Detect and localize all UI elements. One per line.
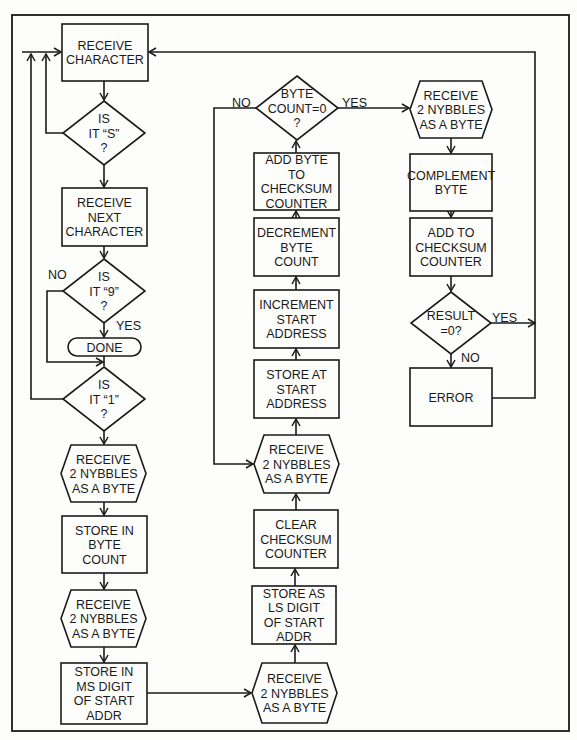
node-text: COUNTER xyxy=(265,547,327,561)
label-no-9: NO xyxy=(48,268,67,282)
node-receive-character: RECEIVECHARACTER xyxy=(62,24,148,81)
node-text: RECEIVE xyxy=(267,672,322,686)
node-text: RECEIVE xyxy=(76,453,131,467)
node-text: RECEIVE xyxy=(78,39,133,53)
node-text: RECEIVE xyxy=(269,443,324,457)
node-text: CHECKSUM xyxy=(261,182,333,196)
node-text: 2 NYBBLES xyxy=(69,467,137,481)
node-text: AS A BYTE xyxy=(72,627,135,641)
node-receive-nybbles-4: RECEIVE2 NYBBLESAS A BYTE xyxy=(254,435,339,493)
node-add-byte-to-checksum: ADD BYTETOCHECKSUMCOUNTER xyxy=(254,153,339,211)
node-text: RECEIVE xyxy=(77,196,132,210)
node-text: IS xyxy=(98,378,110,392)
node-text: COUNT xyxy=(82,553,127,567)
node-receive-nybbles-5: RECEIVE2 NYBBLESAS A BYTE xyxy=(410,81,492,138)
node-text: START xyxy=(277,383,317,397)
node-result-zero: RESULT=0? xyxy=(411,292,491,354)
node-receive-nybbles-2: RECEIVE2 NYBBLESAS A BYTE xyxy=(61,590,146,647)
node-text: IT “1” xyxy=(89,393,119,407)
node-text: STORE IN xyxy=(75,524,134,538)
node-add-to-checksum: ADD TOCHECKSUMCOUNTER xyxy=(410,218,492,276)
node-text: TO xyxy=(288,168,305,182)
node-clear-checksum: CLEARCHECKSUMCOUNTER xyxy=(254,510,338,568)
node-text: ADD TO xyxy=(428,226,475,240)
node-store-ms-digit: STORE INMS DIGITOF STARTADDR xyxy=(61,663,147,724)
node-receive-next-character: RECEIVENEXTCHARACTER xyxy=(62,188,147,246)
node-text: AS A BYTE xyxy=(265,472,328,486)
node-receive-nybbles-1: RECEIVE2 NYBBLESAS A BYTE xyxy=(61,445,146,502)
node-text: COUNT=0 xyxy=(268,102,327,116)
node-text: CHARACTER xyxy=(66,225,144,239)
node-text: ADDR xyxy=(276,630,311,644)
node-text: NEXT xyxy=(88,211,122,225)
label-yes-9: YES xyxy=(116,319,141,333)
node-text: CHECKSUM xyxy=(415,241,487,255)
node-text: ? xyxy=(294,116,301,130)
node-text: STORE AT xyxy=(266,368,327,382)
flowchart: RECEIVECHARACTERISIT “S”?RECEIVENEXTCHAR… xyxy=(0,0,577,740)
label-yes-result: YES xyxy=(492,311,517,325)
node-text: OF START xyxy=(74,694,135,708)
node-receive-nybbles-3: RECEIVE2 NYBBLESAS A BYTE xyxy=(252,663,337,723)
node-text: 2 NYBBLES xyxy=(262,458,330,472)
node-text: =0? xyxy=(440,324,461,338)
node-text: ADDR xyxy=(86,709,121,723)
node-text: COUNTER xyxy=(266,197,328,211)
node-text: IT “S” xyxy=(88,127,119,141)
node-text: MS DIGIT xyxy=(76,680,132,694)
node-text: STORE AS xyxy=(263,587,325,601)
node-text: INCREMENT xyxy=(259,298,334,312)
node-store-ls-digit: STORE ASLS DIGITOF STARTADDR xyxy=(252,586,336,644)
node-text: RESULT xyxy=(427,309,476,323)
node-done: DONE xyxy=(68,338,141,356)
node-text: ERROR xyxy=(428,391,473,405)
node-text: DONE xyxy=(86,341,122,355)
node-text: ADD BYTE xyxy=(265,153,328,167)
node-text: CHARACTER xyxy=(66,53,144,67)
node-text: DECREMENT xyxy=(257,226,337,240)
label-yes-bytecount: YES xyxy=(342,96,367,110)
label-no-result: NO xyxy=(461,351,480,365)
node-is-it-1: ISIT “1”? xyxy=(63,367,145,431)
node-text: CLEAR xyxy=(275,518,317,532)
label-no-bytecount: NO xyxy=(232,96,251,110)
node-store-at-start-address: STORE ATSTARTADDRESS xyxy=(254,360,339,418)
node-complement-byte: COMPLEMENTBYTE xyxy=(407,154,496,211)
node-text: LS DIGIT xyxy=(268,601,320,615)
node-text: 2 NYBBLES xyxy=(69,612,137,626)
node-is-it-s: ISIT “S”? xyxy=(63,101,145,165)
node-text: BYTE xyxy=(88,538,121,552)
node-text: RECEIVE xyxy=(424,89,479,103)
node-text: ? xyxy=(101,299,108,313)
node-text: IS xyxy=(98,270,110,284)
node-text: COUNTER xyxy=(420,255,482,269)
node-text: RECEIVE xyxy=(76,598,131,612)
node-text: STORE IN xyxy=(75,665,134,679)
node-error: ERROR xyxy=(410,368,492,426)
flowchart-nodes: RECEIVECHARACTERISIT “S”?RECEIVENEXTCHAR… xyxy=(61,24,495,724)
node-text: AS A BYTE xyxy=(263,701,326,715)
node-text: 2 NYBBLES xyxy=(417,103,485,117)
node-increment-start-address: INCREMENTSTARTADDRESS xyxy=(254,290,339,348)
node-text: START xyxy=(277,313,317,327)
node-text: ADDRESS xyxy=(266,327,326,341)
node-text: BYTE xyxy=(280,241,313,255)
node-decrement-byte-count: DECREMENTBYTECOUNT xyxy=(254,218,339,276)
node-store-byte-count: STORE INBYTECOUNT xyxy=(62,516,147,573)
node-text: OF START xyxy=(264,616,325,630)
node-text: AS A BYTE xyxy=(419,118,482,132)
node-is-it-9: ISIT “9”? xyxy=(63,259,145,323)
node-text: 2 NYBBLES xyxy=(260,687,328,701)
node-text: BYTE xyxy=(281,87,314,101)
node-text: ? xyxy=(101,141,108,155)
node-text: AS A BYTE xyxy=(72,482,135,496)
node-text: ? xyxy=(101,407,108,421)
node-text: COUNT xyxy=(274,255,319,269)
node-text: IT “9” xyxy=(89,285,119,299)
node-text: BYTE xyxy=(435,183,468,197)
node-byte-count-zero: BYTECOUNT=0? xyxy=(256,76,338,140)
node-text: ADDRESS xyxy=(266,397,326,411)
node-text: COMPLEMENT xyxy=(407,169,496,183)
node-text: CHECKSUM xyxy=(260,533,332,547)
node-text: IS xyxy=(98,112,110,126)
